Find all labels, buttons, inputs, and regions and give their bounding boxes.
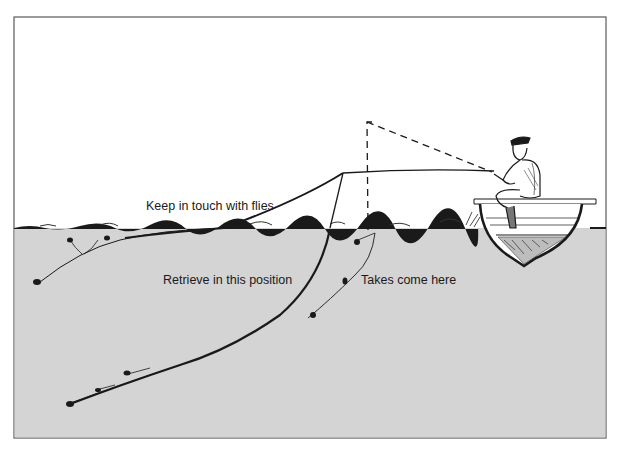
label-retrieve-position: Retrieve in this position <box>163 273 292 287</box>
diagram-illustration <box>0 0 620 453</box>
label-keep-in-touch: Keep in touch with flies <box>146 199 274 213</box>
label-takes-come-here: Takes come here <box>361 273 456 287</box>
fishing-diagram: Keep in touch with flies Retrieve in thi… <box>0 0 620 453</box>
